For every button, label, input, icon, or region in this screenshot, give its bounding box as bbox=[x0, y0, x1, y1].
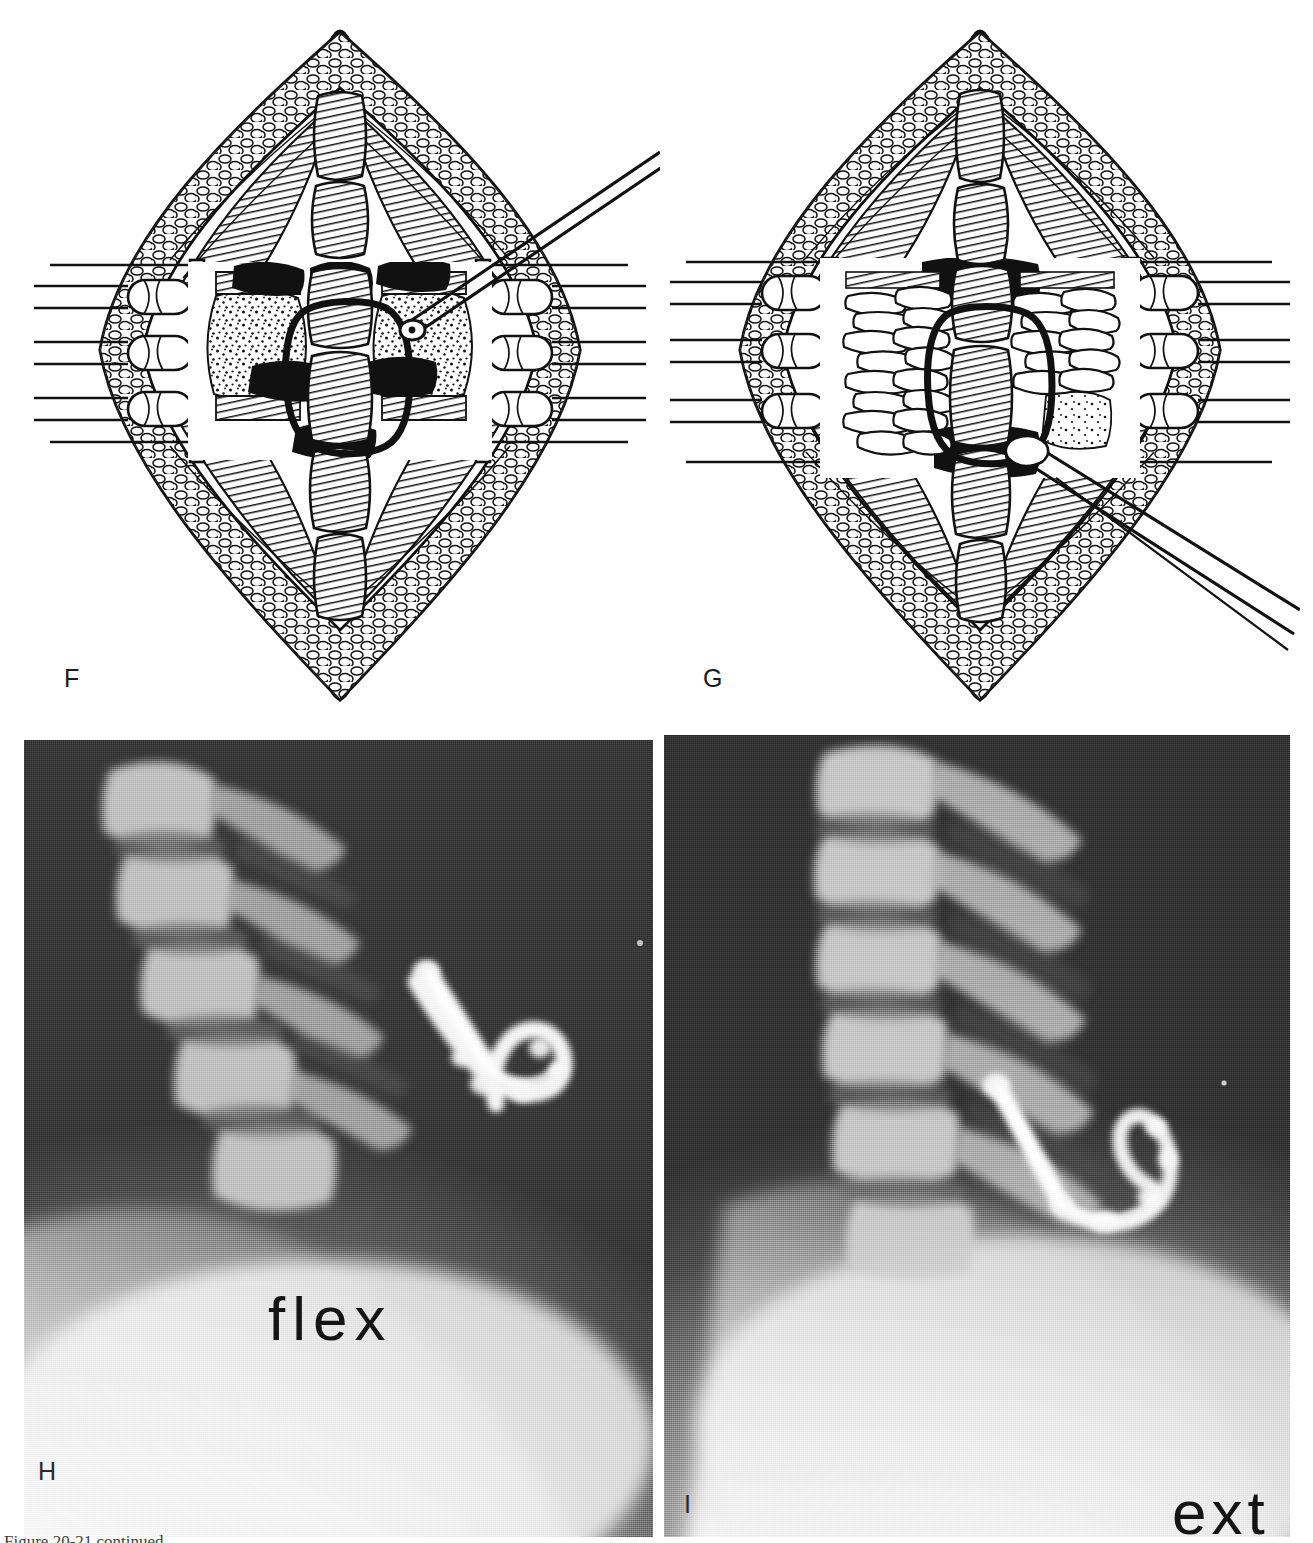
figure-caption-partial: Figure 20-21 continued bbox=[4, 1532, 164, 1543]
panel-f-illustration bbox=[20, 10, 660, 720]
view-label-ext: ext bbox=[1172, 1482, 1270, 1537]
panel-letter-f: F bbox=[64, 666, 80, 691]
figure-page: F bbox=[0, 0, 1313, 1543]
panel-letter-i: I bbox=[684, 1492, 691, 1517]
film-grain-h bbox=[24, 740, 653, 1537]
panel-g-artwork bbox=[660, 10, 1300, 720]
panel-g-illustration bbox=[660, 10, 1300, 720]
spinous-processes-midline bbox=[308, 92, 372, 620]
panel-letter-g: G bbox=[703, 666, 723, 691]
panel-f-artwork bbox=[20, 10, 660, 720]
panel-h-radiograph: flex bbox=[24, 740, 653, 1537]
panel-i-radiograph: ext bbox=[664, 735, 1290, 1537]
panel-letter-h: H bbox=[38, 1459, 57, 1484]
view-label-flex: flex bbox=[268, 1288, 392, 1350]
film-grain-i bbox=[664, 735, 1290, 1537]
